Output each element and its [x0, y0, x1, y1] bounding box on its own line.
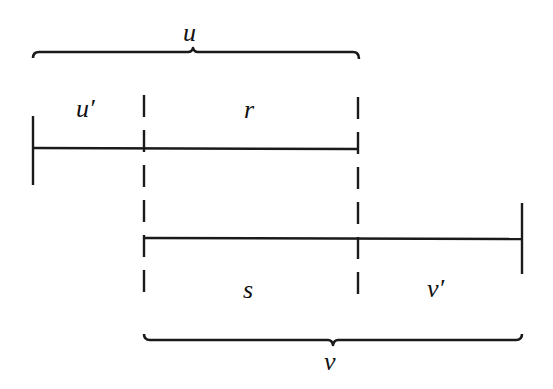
top-brace-u — [33, 48, 359, 59]
label-r: r — [244, 95, 255, 124]
label-v-prime: v′ — [427, 274, 445, 303]
label-s: s — [243, 275, 253, 304]
upper-line — [33, 148, 358, 149]
label-v: v — [324, 347, 336, 376]
interval-diagram: u u′ r s v′ v — [0, 0, 553, 389]
lower-interval — [144, 203, 522, 274]
bottom-brace-v — [144, 334, 522, 345]
label-u-prime: u′ — [76, 94, 95, 123]
label-u: u — [183, 18, 196, 47]
upper-interval — [33, 116, 358, 185]
lower-line — [144, 238, 522, 239]
